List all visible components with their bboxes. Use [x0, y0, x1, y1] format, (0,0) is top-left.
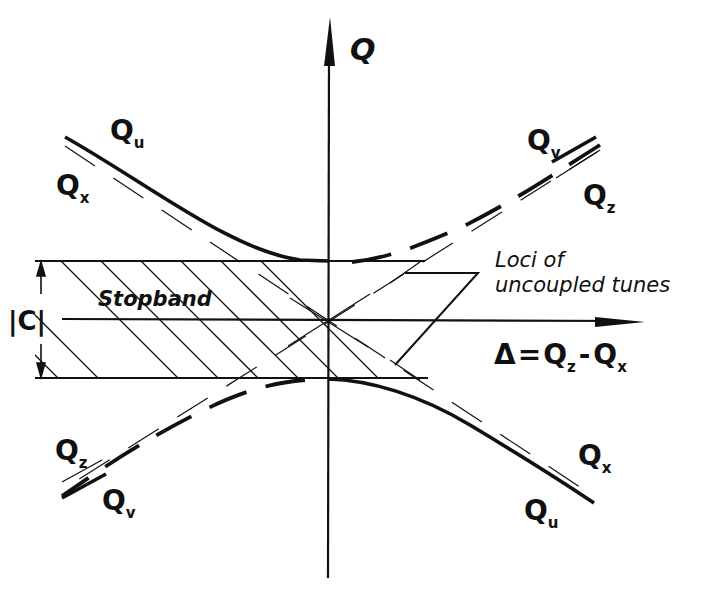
- label-qx-bottom-right: Qx: [578, 439, 612, 477]
- delta-axis: [62, 319, 625, 321]
- delta-axis-arrowhead: [595, 317, 645, 327]
- curve-qu-lower: [328, 379, 594, 503]
- coupling-diagram: Q Qu Qx Qv Qz Qz Qv Qx Qu |C| Stopband L…: [0, 0, 724, 594]
- curve-qu-upper: [65, 137, 328, 261]
- label-qu-bottom-right: Qu: [524, 494, 559, 532]
- label-qz-top-right: Qz: [583, 179, 616, 217]
- curve-qv-upper: [352, 145, 600, 262]
- stopband-label: Stopband: [98, 287, 213, 311]
- loci-annotation-line2: uncoupled tunes: [495, 273, 670, 297]
- q-axis: [328, 48, 329, 578]
- stopband-hatching: [0, 240, 400, 440]
- label-qx-top-left: Qx: [56, 169, 90, 207]
- label-qv-bottom-left: Qv: [102, 484, 136, 522]
- loci-leader-line: [395, 273, 478, 365]
- delta-axis-label: Δ=Qz-Qx: [494, 338, 627, 376]
- label-qu-top-left: Qu: [110, 114, 145, 152]
- q-axis-arrowhead: [324, 17, 335, 66]
- band-width-label: |C|: [8, 306, 46, 337]
- label-qv-top-right: Qv: [527, 124, 561, 162]
- loci-annotation-line1: Loci of: [495, 248, 567, 272]
- q-axis-label: Q: [350, 32, 376, 67]
- label-qz-bottom-left: Qz: [55, 434, 88, 472]
